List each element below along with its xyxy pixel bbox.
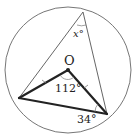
center-point — [66, 68, 70, 72]
geometry-diagram: O x° 112° 34° — [0, 0, 133, 138]
label-angle-112: 112° — [55, 82, 82, 95]
label-center-o: O — [64, 53, 75, 68]
label-angle-x: x° — [73, 28, 84, 39]
chord-top-right — [83, 12, 107, 114]
angle-arc-x — [77, 25, 86, 26]
label-angle-34: 34° — [77, 113, 97, 126]
tick-mark-right — [84, 85, 88, 88]
